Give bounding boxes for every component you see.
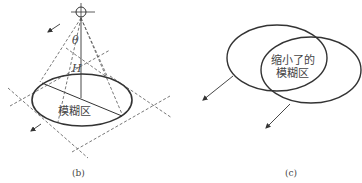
motion-arrow-top: [48, 24, 60, 32]
motion-arrow-bottom: [31, 124, 41, 131]
angle-label: θ: [72, 34, 79, 47]
panel-c: 缩小了的 模糊区 (c): [203, 25, 361, 178]
motion-arrow-right: [266, 104, 290, 128]
sensor-icon: [71, 3, 95, 21]
reduced-zone-label-1: 缩小了的: [271, 53, 315, 67]
motion-arrow-left: [203, 76, 233, 100]
view-cone: [8, 18, 172, 158]
panel-b: θ H 模糊区 (b): [8, 3, 172, 178]
blur-zone-label: 模糊区: [58, 104, 91, 118]
reduced-zone-label-2: 模糊区: [276, 66, 309, 80]
diagram-canvas: θ H 模糊区 (b) 缩小了的 模糊区 (c): [0, 0, 362, 183]
caption-b: (b): [72, 168, 85, 178]
caption-c: (c): [285, 168, 297, 178]
height-label: H: [71, 62, 82, 75]
